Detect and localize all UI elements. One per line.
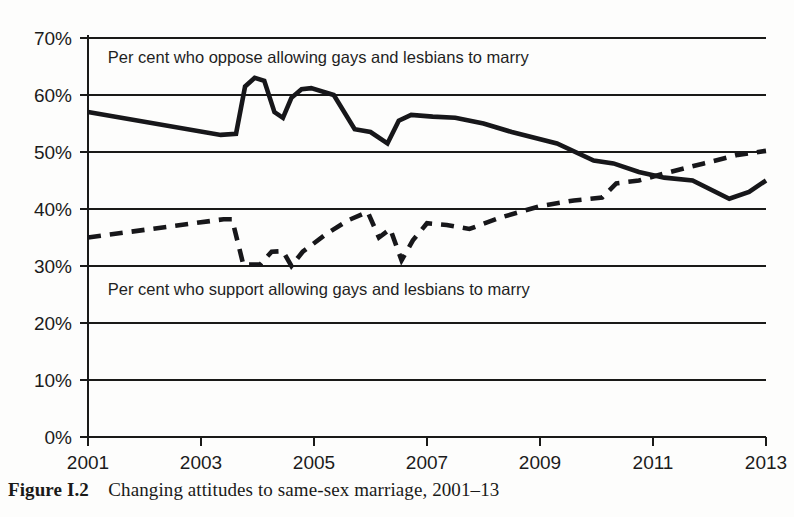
x-tick-label: 2011 xyxy=(633,452,674,473)
y-tick-label: 70% xyxy=(34,28,72,49)
y-tick-label: 10% xyxy=(34,370,72,391)
x-tick-label: 2007 xyxy=(406,452,448,473)
annotation-support-note: Per cent who support allowing gays and l… xyxy=(108,280,531,298)
x-tick-label: 2009 xyxy=(519,452,561,473)
figure-caption-text: Changing attitudes to same-sex marriage,… xyxy=(108,479,499,500)
y-tick-label: 40% xyxy=(34,199,72,220)
x-tick-label: 2013 xyxy=(745,452,787,473)
x-axis xyxy=(88,437,766,446)
series-line-oppose xyxy=(88,78,766,199)
y-tick-label: 20% xyxy=(34,313,72,334)
y-tick-label: 50% xyxy=(34,142,72,163)
y-axis xyxy=(80,35,88,439)
y-tick-label: 60% xyxy=(34,85,72,106)
grid-lines xyxy=(88,38,766,437)
y-tick-label: 0% xyxy=(45,427,73,448)
data-series-group xyxy=(88,78,766,266)
figure-caption-label: Figure I.2 xyxy=(8,479,89,500)
x-axis-tick-labels: 2001200320052007200920112013 xyxy=(67,452,787,473)
figure-caption: Figure I.2 Changing attitudes to same-se… xyxy=(8,479,788,501)
figure-container: 0%10%20%30%40%50%60%70% 2001200320052007… xyxy=(0,0,794,517)
x-tick-label: 2005 xyxy=(293,452,335,473)
series-annotations: Per cent who oppose allowing gays and le… xyxy=(108,48,531,298)
x-tick-label: 2003 xyxy=(180,452,222,473)
y-axis-tick-labels: 0%10%20%30%40%50%60%70% xyxy=(34,28,72,448)
annotation-oppose-note: Per cent who oppose allowing gays and le… xyxy=(108,48,530,66)
x-tick-label: 2001 xyxy=(67,452,109,473)
line-chart: 0%10%20%30%40%50%60%70% 2001200320052007… xyxy=(0,0,794,517)
y-tick-label: 30% xyxy=(34,256,72,277)
